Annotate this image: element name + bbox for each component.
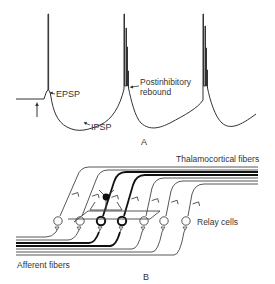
collateral-terminal bbox=[72, 193, 79, 197]
afferent-fiber bbox=[16, 232, 99, 243]
afferent-bouton bbox=[55, 227, 59, 230]
stimulus-arrow bbox=[35, 102, 39, 117]
figure: EPSP IPSP Postinhibitory rebound A Thala… bbox=[0, 0, 275, 284]
relay-cell bbox=[76, 217, 84, 225]
thalamocortical-fiber bbox=[166, 181, 258, 216]
collateral-terminal bbox=[111, 195, 118, 199]
ipsp-label: IPSP bbox=[91, 122, 112, 132]
collateral-terminal bbox=[171, 200, 178, 204]
relay-cells-label: Relay cells bbox=[197, 217, 238, 227]
afferent-bouton bbox=[98, 227, 102, 230]
panel-a: EPSP IPSP Postinhibitory rebound A bbox=[16, 14, 256, 147]
collateral-terminal bbox=[152, 199, 159, 203]
afferent-bouton bbox=[141, 227, 145, 230]
thalamocortical-fiber bbox=[188, 184, 258, 216]
collateral-terminal bbox=[92, 194, 99, 198]
rebound-annotation: Postinhibitory rebound bbox=[130, 77, 192, 97]
afferent-label: Afferent fibers bbox=[17, 260, 70, 270]
collateral-terminal bbox=[193, 202, 200, 206]
epsp-label: EPSP bbox=[56, 89, 80, 99]
epsp-annotation: EPSP bbox=[50, 89, 81, 99]
panel-a-label: A bbox=[141, 137, 147, 147]
relay-cell bbox=[182, 217, 190, 225]
panel-b-label: B bbox=[143, 272, 149, 282]
afferent-bouton bbox=[161, 227, 165, 230]
collateral-terminal bbox=[131, 197, 138, 201]
membrane-trace bbox=[16, 14, 256, 130]
relay-cell bbox=[97, 217, 105, 225]
rebound-label-line1: Postinhibitory bbox=[140, 77, 192, 87]
rebound-label-line2: rebound bbox=[140, 87, 171, 97]
relay-cell bbox=[140, 217, 148, 225]
interneuron-cell bbox=[103, 194, 110, 201]
relay-cell bbox=[54, 217, 62, 225]
relay-cell bbox=[118, 217, 126, 225]
afferent-fiber bbox=[16, 232, 56, 237]
thalamocortical-fiber bbox=[82, 170, 258, 216]
afferent-bouton bbox=[119, 227, 123, 230]
panel-b: Thalamocortical fibers Relay cells Affer… bbox=[16, 154, 259, 282]
relay-cell bbox=[160, 217, 168, 225]
circuit-schematic bbox=[16, 167, 258, 255]
afferent-fiber bbox=[16, 232, 78, 240]
afferent-bouton bbox=[77, 227, 81, 230]
ipsp-annotation: IPSP bbox=[84, 122, 112, 132]
afferent-bouton bbox=[183, 227, 187, 230]
thalamocortical-label: Thalamocortical fibers bbox=[176, 154, 259, 164]
